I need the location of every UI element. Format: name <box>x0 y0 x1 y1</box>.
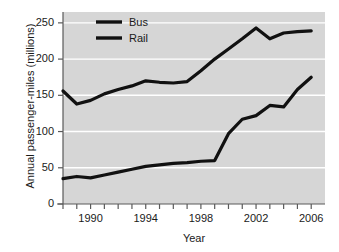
x-axis-ticks-group <box>63 204 311 209</box>
y-axis-tick-label: 200 <box>20 52 54 64</box>
y-axis-tick-label: 50 <box>20 161 54 173</box>
x-axis-tick-label: 2002 <box>236 212 276 224</box>
y-axis-tick-label: 250 <box>20 16 54 28</box>
x-axis-tick-label: 2006 <box>291 212 331 224</box>
x-axis-tick-label: 1994 <box>126 212 166 224</box>
x-axis-tick-label: 1990 <box>71 212 111 224</box>
y-axis-tick-label: 150 <box>20 88 54 100</box>
chart-container: Annual passenger-miles (millions) Year B… <box>0 0 339 252</box>
legend-label-rail: Rail <box>129 32 148 44</box>
x-axis-tick-label: 1998 <box>181 212 221 224</box>
legend-label-bus: Bus <box>129 16 148 28</box>
y-axis-tick-label: 0 <box>20 197 54 209</box>
y-axis-ticks-group <box>58 23 63 204</box>
y-axis-tick-label: 100 <box>20 125 54 137</box>
